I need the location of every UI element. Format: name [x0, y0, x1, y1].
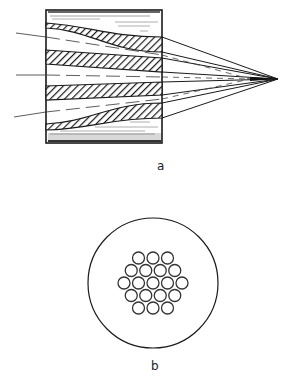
- fiber-circle: [162, 277, 174, 289]
- fiber-circle: [162, 252, 174, 264]
- core-continuation-line: [162, 77, 250, 79]
- panel-a-label: a: [157, 159, 164, 173]
- incoming-ray-1: [16, 33, 46, 37]
- fiber-circle: [133, 302, 145, 314]
- incoming-ray-3: [14, 112, 46, 117]
- fiber-circle: [133, 252, 145, 264]
- fiber-circle: [125, 265, 137, 277]
- fiber-circle: [154, 290, 166, 302]
- fiber-circle: [140, 290, 152, 302]
- converging-line: [162, 79, 278, 103]
- housing-circle: [88, 218, 218, 348]
- panel-a: a: [14, 10, 278, 173]
- figure: a b: [0, 0, 288, 381]
- fiber-circle: [147, 302, 159, 314]
- converging-line: [162, 52, 278, 79]
- fiber-circle: [133, 277, 145, 289]
- converging-lines: [162, 37, 278, 118]
- panel-b-label: b: [151, 359, 159, 373]
- fiber-circle: [176, 277, 188, 289]
- fiber-circle: [154, 265, 166, 277]
- fiber-circle: [169, 265, 181, 277]
- panel-b: b: [88, 218, 218, 373]
- fiber-circle: [140, 265, 152, 277]
- fiber-circle: [169, 290, 181, 302]
- core-continuation-line: [162, 55, 250, 79]
- fiber-circle: [125, 290, 137, 302]
- fiber-circle: [147, 252, 159, 264]
- fiber-bundle: [118, 252, 188, 314]
- fiber-circle: [147, 277, 159, 289]
- converging-line: [162, 79, 278, 118]
- fiber-circle: [118, 277, 130, 289]
- fiber-circle: [162, 302, 174, 314]
- fiber-block: [46, 10, 162, 143]
